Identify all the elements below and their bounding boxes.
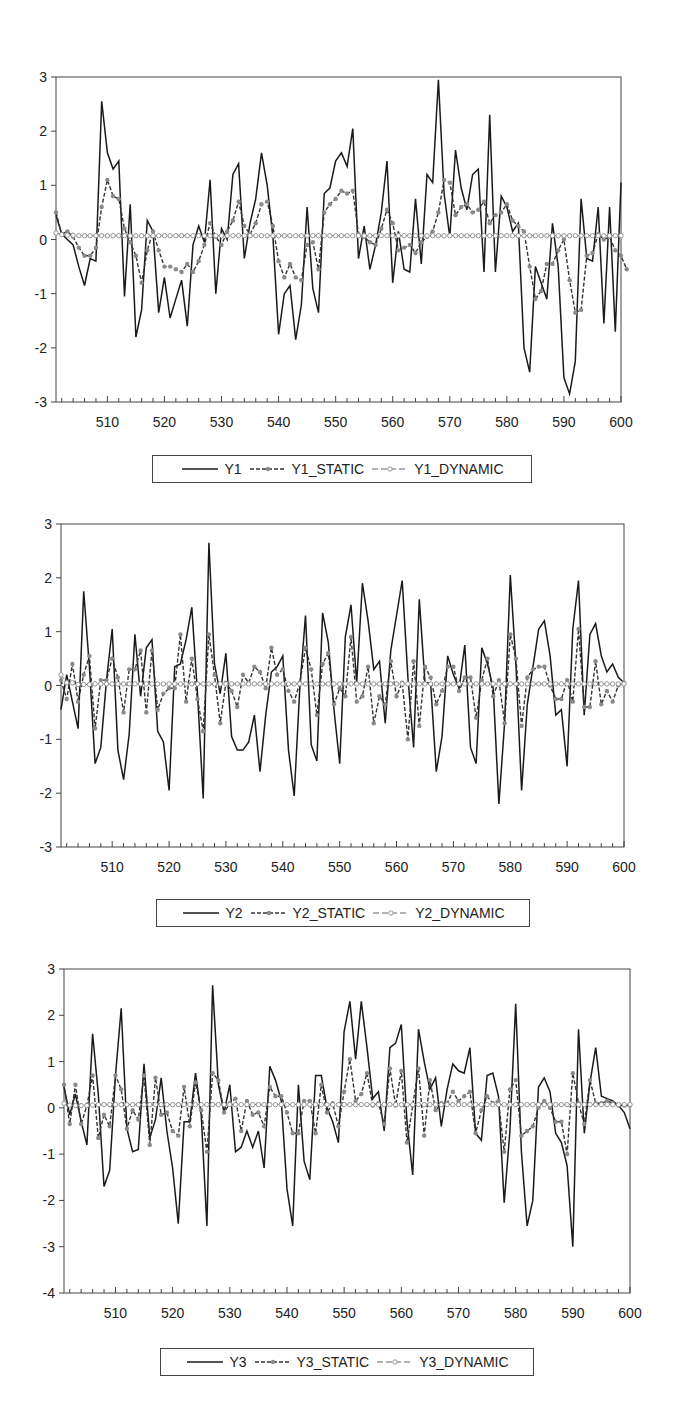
legend-label: Y2 bbox=[225, 905, 242, 921]
dashed-open-dot-swatch-icon bbox=[371, 908, 411, 918]
series-y2 bbox=[61, 543, 624, 804]
x-tick-label: 530 bbox=[218, 1305, 242, 1321]
chart-2: -3-2-10123510520530540550560570580590600 bbox=[40, 516, 636, 875]
y-tick-label: -3 bbox=[40, 839, 53, 855]
solid-line-swatch-icon bbox=[185, 1357, 225, 1367]
legend: Y3Y3_STATICY3_DYNAMIC bbox=[160, 1348, 534, 1376]
legend-item: Y3_DYNAMIC bbox=[375, 1354, 508, 1370]
x-tick-label: 530 bbox=[210, 414, 234, 430]
dashed-filled-dot-swatch-icon bbox=[249, 908, 289, 918]
y-tick-label: 2 bbox=[47, 1007, 55, 1023]
chart-3: -4-3-2-101235105205305405505605705805906… bbox=[43, 961, 642, 1321]
x-tick-label: 520 bbox=[157, 859, 181, 875]
legend-label: Y3 bbox=[229, 1354, 246, 1370]
dashed-filled-dot-swatch-icon bbox=[248, 464, 288, 474]
legend-item: Y3 bbox=[185, 1354, 246, 1370]
legend-item: Y2_DYNAMIC bbox=[371, 905, 504, 921]
x-tick-label: 560 bbox=[381, 414, 405, 430]
dashed-open-dot-swatch-icon bbox=[370, 464, 410, 474]
y-tick-label: -4 bbox=[43, 1285, 56, 1301]
legend-item: Y1_DYNAMIC bbox=[370, 461, 503, 477]
y-tick-label: 1 bbox=[39, 177, 47, 193]
x-tick-label: 530 bbox=[214, 859, 238, 875]
legend-item: Y3_STATIC bbox=[253, 1354, 370, 1370]
x-tick-label: 520 bbox=[161, 1305, 185, 1321]
x-tick-label: 540 bbox=[275, 1305, 299, 1321]
legend-item: Y2 bbox=[181, 905, 242, 921]
legend-item: Y1_STATIC bbox=[248, 461, 365, 477]
x-tick-label: 580 bbox=[504, 1305, 528, 1321]
x-tick-label: 570 bbox=[442, 859, 466, 875]
x-tick-label: 520 bbox=[153, 414, 177, 430]
legend-label: Y2_DYNAMIC bbox=[415, 905, 504, 921]
x-tick-label: 600 bbox=[609, 414, 633, 430]
y-tick-label: 2 bbox=[44, 570, 52, 586]
y-tick-label: -2 bbox=[35, 340, 48, 356]
y-tick-label: 3 bbox=[44, 516, 52, 532]
x-tick-label: 570 bbox=[447, 1305, 471, 1321]
chart-1: -3-2-10123510520530540550560570580590600 bbox=[35, 69, 633, 430]
y-tick-label: -1 bbox=[43, 1146, 56, 1162]
x-tick-label: 550 bbox=[324, 414, 348, 430]
legend-label: Y2_STATIC bbox=[293, 905, 366, 921]
x-tick-label: 510 bbox=[104, 1305, 128, 1321]
y-tick-label: 1 bbox=[44, 624, 52, 640]
y-tick-label: 1 bbox=[47, 1054, 55, 1070]
x-tick-label: 540 bbox=[267, 414, 291, 430]
x-tick-label: 570 bbox=[438, 414, 462, 430]
y-tick-label: 0 bbox=[39, 232, 47, 248]
legend-label: Y3_STATIC bbox=[297, 1354, 370, 1370]
y-tick-label: -2 bbox=[43, 1192, 56, 1208]
y-tick-label: -1 bbox=[35, 286, 48, 302]
solid-line-swatch-icon bbox=[181, 908, 221, 918]
charts-svg: -3-2-10123510520530540550560570580590600… bbox=[0, 0, 680, 1428]
x-tick-label: 510 bbox=[101, 859, 125, 875]
y-tick-label: 0 bbox=[47, 1100, 55, 1116]
legend: Y2Y2_STATICY2_DYNAMIC bbox=[156, 899, 530, 927]
x-tick-label: 510 bbox=[96, 414, 120, 430]
legend-label: Y1 bbox=[224, 461, 241, 477]
legend-label: Y1_STATIC bbox=[292, 461, 365, 477]
x-tick-label: 590 bbox=[561, 1305, 585, 1321]
x-tick-label: 540 bbox=[271, 859, 295, 875]
y-tick-label: -1 bbox=[40, 731, 53, 747]
dashed-filled-dot-swatch-icon bbox=[253, 1357, 293, 1367]
legend-label: Y1_DYNAMIC bbox=[414, 461, 503, 477]
legend-item: Y2_STATIC bbox=[249, 905, 366, 921]
y-tick-label: 3 bbox=[39, 69, 47, 85]
y-tick-label: 2 bbox=[39, 123, 47, 139]
x-tick-label: 550 bbox=[328, 859, 352, 875]
plot-frame bbox=[56, 77, 621, 402]
y-tick-label: -2 bbox=[40, 785, 53, 801]
legend: Y1Y1_STATICY1_DYNAMIC bbox=[152, 455, 532, 483]
legend-label: Y3_DYNAMIC bbox=[419, 1354, 508, 1370]
x-tick-label: 560 bbox=[385, 859, 409, 875]
x-tick-label: 550 bbox=[332, 1305, 356, 1321]
dashed-open-dot-swatch-icon bbox=[375, 1357, 415, 1367]
x-tick-label: 580 bbox=[495, 414, 519, 430]
x-tick-label: 590 bbox=[552, 414, 576, 430]
y-tick-label: -3 bbox=[43, 1239, 56, 1255]
legend-item: Y1 bbox=[180, 461, 241, 477]
x-tick-label: 580 bbox=[499, 859, 523, 875]
y-tick-label: -3 bbox=[35, 394, 48, 410]
x-tick-label: 590 bbox=[555, 859, 579, 875]
series-y3 bbox=[64, 985, 630, 1246]
x-tick-label: 560 bbox=[390, 1305, 414, 1321]
y-tick-label: 0 bbox=[44, 678, 52, 694]
y-tick-label: 3 bbox=[47, 961, 55, 977]
x-tick-label: 600 bbox=[618, 1305, 642, 1321]
x-tick-label: 600 bbox=[612, 859, 636, 875]
solid-line-swatch-icon bbox=[180, 464, 220, 474]
